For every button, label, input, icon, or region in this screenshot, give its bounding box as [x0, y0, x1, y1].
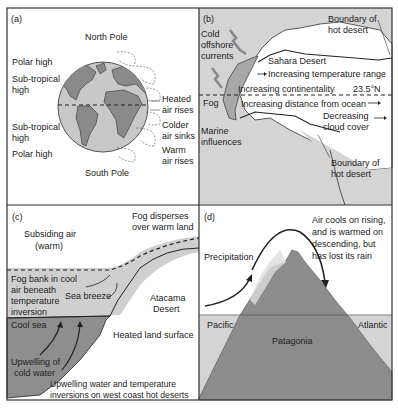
subsiding-air-label-2: (warm)	[35, 241, 63, 252]
cloud-label-1: Decreasing	[323, 111, 369, 122]
fog-label: Fog	[203, 98, 219, 109]
atacama-label-2: Desert	[153, 304, 180, 315]
temperature-range-label: Increasing temperature range	[268, 69, 386, 80]
atacama-label-1: Atacama	[150, 293, 186, 304]
south-pole-label: South Pole	[85, 168, 129, 179]
fog-bank-label-4: inversion	[11, 307, 47, 318]
cloud-label-2: cloud cover	[323, 122, 369, 133]
panel-b-tag: (b)	[203, 14, 214, 25]
figure-graphics	[0, 0, 398, 410]
fog-bank-label-2: air beneath	[11, 285, 56, 296]
fog-bank-label-3: temperature	[11, 296, 60, 307]
heated-land-label: Heated land surface	[113, 330, 194, 341]
subtropical-high-south-label-1: Sub-tropical	[12, 122, 60, 133]
cold-currents-label-3: currents	[201, 51, 234, 62]
fog-bank-label-1: Fog bank in cool	[11, 274, 77, 285]
polar-high-north-label: Polar high	[12, 57, 53, 68]
cold-currents-label-2: offshore	[201, 40, 233, 51]
subtropical-high-north-label-1: Sub-tropical	[12, 74, 60, 85]
subtropical-high-north-label-2: high	[12, 85, 29, 96]
panel-a-graphics	[58, 52, 160, 162]
patagonia-label: Patagonia	[272, 336, 313, 347]
cool-sea-label: Cool sea	[11, 320, 47, 331]
colder-air-label-2: air sinks	[162, 131, 195, 142]
boundary-top-label-1: Boundary of	[328, 14, 377, 25]
boundary-top-label-2: hot desert	[328, 25, 368, 36]
panel-d-tag: (d)	[204, 212, 215, 223]
heated-air-label-1: Heated	[162, 94, 191, 105]
fog-disperses-label-2: over warm land	[132, 222, 194, 233]
latitude-label: 23.5°N	[353, 84, 381, 95]
marine-label-2: influences	[201, 137, 242, 148]
air-cools-label-4: has lost its rain	[312, 251, 372, 262]
distance-label: Increasing distance from ocean	[241, 99, 366, 110]
air-cools-label-2: and is warmed on	[312, 227, 383, 238]
caption-label-2: inversions on west coast hot deserts	[50, 390, 189, 401]
air-cools-label-3: descending, but	[312, 239, 376, 250]
sea-breeze-label: Sea breeze	[65, 291, 111, 302]
upwelling-label-1: Upwelling of	[11, 357, 60, 368]
subsiding-air-label-1: Subsiding air	[24, 229, 76, 240]
colder-air-label-1: Colder	[162, 120, 189, 131]
warm-air-label-1: Warm	[162, 145, 186, 156]
panel-a-tag: (a)	[11, 14, 22, 25]
sahara-label: Sahara Desert	[268, 56, 326, 67]
polar-high-south-label: Polar high	[12, 149, 53, 160]
panel-c-tag: (c)	[12, 212, 23, 223]
north-pole-label: North Pole	[85, 32, 128, 43]
upwelling-label-2: cold water	[14, 368, 55, 379]
pacific-label: Pacific	[207, 320, 234, 331]
subtropical-high-south-label-2: high	[12, 133, 29, 144]
caption-label-1: Upwelling water and temperature	[50, 379, 176, 390]
boundary-bottom-label-1: Boundary of	[331, 158, 380, 169]
precipitation-label: Precipitation	[204, 252, 254, 263]
continentality-label: Increasing continentality	[238, 84, 335, 95]
heated-air-label-2: air rises	[162, 105, 194, 116]
fog-disperses-label-1: Fog disperses	[132, 211, 189, 222]
air-cools-label-1: Air cools on rising,	[312, 215, 386, 226]
cold-currents-label-1: Cold	[201, 29, 220, 40]
warm-air-label-2: air rises	[162, 156, 194, 167]
atlantic-label: Atlantic	[358, 320, 388, 331]
boundary-bottom-label-2: hot desert	[331, 169, 371, 180]
marine-label-1: Marine	[201, 126, 229, 137]
